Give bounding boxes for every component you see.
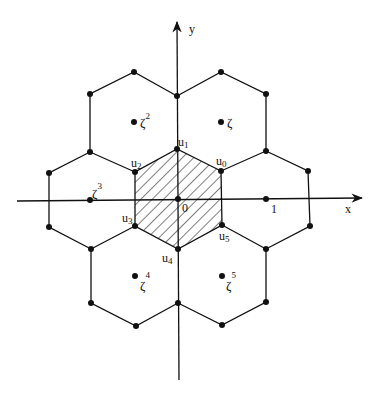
u1-label: u1 — [178, 135, 189, 150]
u3-label: u3 — [122, 211, 133, 226]
zeta-dot — [218, 119, 224, 125]
zeta5-dot — [219, 273, 225, 279]
one-dot — [263, 196, 269, 202]
x-axis-label: x — [345, 202, 351, 216]
zeta5-label: ζ5 — [226, 270, 236, 293]
y-axis-label: y — [189, 22, 195, 36]
zeta4-label: ζ4 — [140, 270, 150, 293]
zeta3-label: ζ3 — [92, 181, 102, 201]
u0-label: u0 — [216, 154, 227, 169]
origin-label: 0 — [182, 201, 188, 215]
origin-dot — [175, 196, 181, 202]
unit-label: 1 — [271, 202, 277, 216]
u2-label: u2 — [131, 156, 142, 171]
zeta2-label: ζ2 — [140, 111, 150, 130]
zeta-label: ζ — [227, 115, 233, 130]
u4-label: u4 — [162, 251, 173, 266]
zeta4-dot — [132, 273, 138, 279]
zeta2-dot — [131, 119, 137, 125]
u5-label: u5 — [219, 229, 230, 244]
hexagonal-lattice-diagram: y x 0 1 u1 u2 u0 u3 u5 u4 ζ ζ2 ζ3 ζ4 ζ5 — [0, 0, 380, 395]
